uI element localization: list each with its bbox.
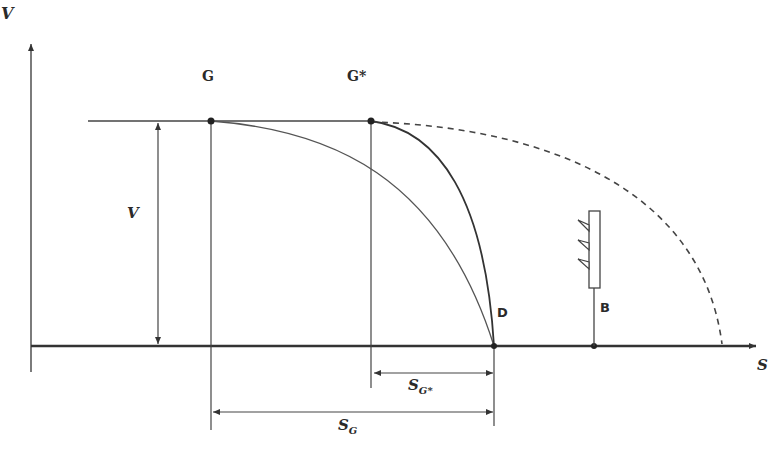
x-axis-label: S [757,356,768,374]
point-b-label: B [600,300,610,315]
point-g-label: G [202,68,214,84]
s-g-star-label-main: S [408,376,419,394]
point-d-label: D [497,305,508,320]
s-g-star-label-sub: G* [419,385,433,396]
s-g-star-label: SG* [408,376,433,394]
point-g-star-label: G* [347,68,366,84]
s-g-label-main: S [338,416,349,434]
braking-curve-from-g-star [371,121,494,346]
diagram-canvas: V S G G* D B V SG* SG [0,0,774,449]
y-axis-label: V [1,4,13,23]
point-g [208,118,215,125]
diagram-svg [0,0,774,449]
braking-curve-from-g [211,121,494,346]
speed-dimension-label: V [127,204,139,222]
signal-icon [578,211,600,346]
point-g-star [368,118,375,125]
point-d [491,343,497,349]
s-g-label: SG [338,416,357,434]
s-g-label-sub: G [349,425,358,436]
dashed-curve-from-g-star [371,122,722,344]
